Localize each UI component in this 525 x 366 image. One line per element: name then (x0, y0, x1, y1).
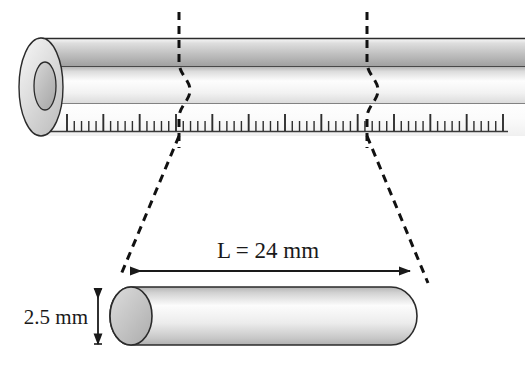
tube-measurement-figure: L = 24 mm 2.5 mm (0, 0, 525, 366)
length-label: L = 24 mm (217, 238, 319, 263)
long-tube (19, 38, 525, 136)
tube-end-inner-hole (34, 62, 56, 110)
extracted-cylinder-segment (110, 287, 417, 345)
tube-bore (40, 67, 525, 104)
segment-body (110, 287, 417, 345)
projector-line-left (120, 136, 179, 277)
segment-left-cap (110, 287, 152, 345)
figure-root: L = 24 mm 2.5 mm (0, 0, 525, 366)
tube-end-annulus (19, 38, 63, 136)
projector-line-right (367, 136, 428, 283)
tube-upper-wall (40, 38, 525, 67)
diameter-label: 2.5 mm (24, 305, 88, 329)
diameter-dimension-arrow (94, 289, 102, 344)
